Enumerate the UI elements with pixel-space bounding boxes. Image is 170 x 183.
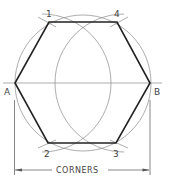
dimension-label: CORNERS [56, 166, 99, 175]
label-point-a: A [4, 87, 11, 97]
label-point-2: 2 [44, 149, 50, 159]
hexagon-construction-diagram: 1 4 A B 2 3 CORNERS [0, 0, 170, 183]
hexagon [15, 22, 150, 143]
arrowhead-right-icon [143, 169, 150, 172]
label-point-4: 4 [114, 9, 120, 19]
arrowhead-left-icon [15, 169, 22, 172]
label-point-b: B [154, 87, 160, 97]
label-point-3: 3 [113, 149, 119, 159]
label-point-1: 1 [46, 9, 52, 19]
